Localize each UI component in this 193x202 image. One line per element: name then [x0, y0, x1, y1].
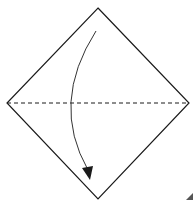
corner-mark-icon	[186, 193, 193, 200]
origami-diagram	[0, 0, 193, 202]
